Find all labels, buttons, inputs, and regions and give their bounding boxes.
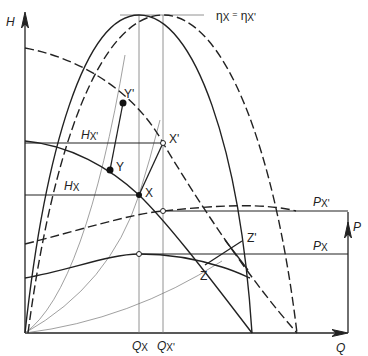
p-axis-label: P [353,220,361,234]
axes [22,12,352,337]
qx-prime-label: QX' [157,339,175,353]
efficiency-label: ηX=ηX' [216,9,256,23]
point-z-prime-label: Z' [247,231,257,245]
px-label: PX [313,239,328,253]
point-x-prime [161,141,166,146]
point-px-prime [161,209,166,214]
point-px [137,252,142,257]
labels: H Q P ηX=ηX' HX' HX PX' PX QX QX' X X' Y… [6,9,361,355]
point-x [136,192,142,198]
hx-prime-label: HX' [81,128,98,142]
qx-label: QX [132,339,148,353]
flow-reference-lines [120,15,204,333]
px-prime-label: PX' [313,195,330,209]
h-axis-label: H [6,15,15,29]
point-y [107,167,114,174]
points [107,100,166,257]
point-y-label: Y [116,160,124,174]
point-x-prime-label: X' [169,132,179,146]
eta-curve-dashed [28,15,297,333]
efficiency-curves [25,15,297,333]
pump-characteristic-diagram: H Q P ηX=ηX' HX' HX PX' PX QX QX' X X' Y… [0,0,368,356]
point-z-label: Z [200,269,207,283]
point-y-prime-label: Y' [124,87,134,101]
q-axis-label: Q [336,341,345,355]
parabola-steep [25,55,125,333]
line-z-to-z-prime [205,241,242,265]
construction-lines [110,103,248,270]
hx-label: HX [64,179,80,193]
point-x-label: X [145,186,153,200]
